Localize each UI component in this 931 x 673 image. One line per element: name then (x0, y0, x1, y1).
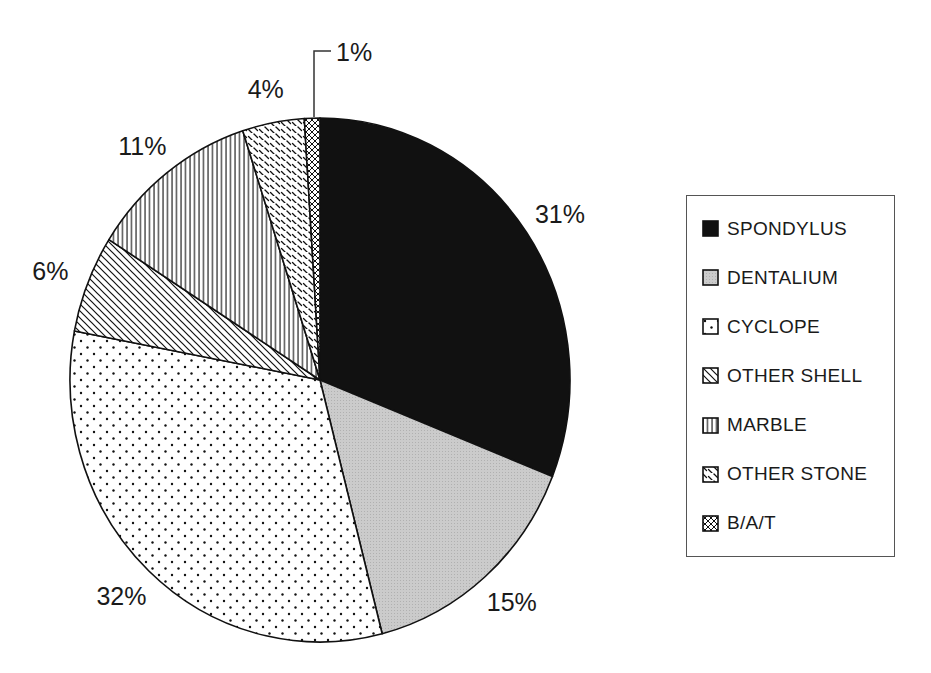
slice-label-other-stone: 4% (248, 75, 284, 103)
leader-line-b-a-t (314, 51, 331, 117)
slice-label-cyclope: 32% (96, 582, 146, 610)
legend-item-other-stone: OTHER STONE (702, 463, 888, 485)
slice-label-dentalium: 15% (487, 588, 537, 616)
legend-item-b-a-t: B/A/T (702, 512, 888, 534)
pie-chart-figure: 31%15%32%6%11%4%1% SPONDYLUSDENTALIUMCYC… (0, 0, 931, 673)
legend-item-other-shell: OTHER SHELL (702, 365, 888, 387)
legend-item-marble: MARBLE (702, 414, 888, 436)
legend-swatch-spondylus-icon (702, 220, 719, 237)
legend-swatch-b-a-t-icon (702, 515, 719, 532)
slice-label-spondylus: 31% (535, 200, 585, 228)
legend-label: CYCLOPE (727, 316, 820, 338)
legend-item-cyclope: CYCLOPE (702, 316, 888, 338)
slice-label-marble: 11% (118, 132, 166, 160)
legend-swatch-other-shell-icon (702, 367, 719, 384)
legend-label: SPONDYLUS (727, 218, 847, 240)
legend: SPONDYLUSDENTALIUMCYCLOPEOTHER SHELLMARB… (686, 195, 895, 557)
legend-label: MARBLE (727, 414, 807, 436)
legend-item-dentalium: DENTALIUM (702, 267, 888, 289)
legend-label: OTHER SHELL (727, 365, 862, 387)
legend-label: DENTALIUM (727, 267, 838, 289)
legend-swatch-marble-icon (702, 417, 719, 434)
legend-swatch-dentalium-icon (702, 269, 719, 286)
legend-swatch-other-stone-icon (702, 466, 719, 483)
legend-label: B/A/T (727, 512, 776, 534)
pie-chart: 31%15%32%6%11%4%1% (0, 0, 660, 673)
legend-item-spondylus: SPONDYLUS (702, 218, 888, 240)
pie-slices (70, 118, 570, 642)
slice-label-other-shell: 6% (32, 257, 68, 285)
legend-label: OTHER STONE (727, 463, 867, 485)
legend-swatch-cyclope-icon (702, 318, 719, 335)
slice-label-b-a-t: 1% (336, 38, 372, 66)
